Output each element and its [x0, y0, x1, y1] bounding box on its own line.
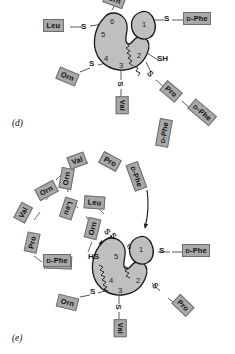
domain-number-2-e: 2	[136, 277, 140, 285]
atom-thiol-domain2-d: SH	[157, 55, 168, 63]
domain-number-3-e: 3	[118, 287, 122, 295]
domain-number-2-d: 2	[137, 52, 141, 60]
domain-number-1-d: 1	[142, 21, 146, 29]
atom-sulfur-domain1-e: S	[159, 247, 164, 255]
residue-dphe-domain1-e: D-Phe	[182, 244, 210, 257]
domain-number-1-e: 1	[139, 246, 143, 254]
atom-sulfur-domain4-e: S	[90, 288, 95, 296]
bond-s-orn	[80, 68, 90, 72]
atom-sulfur-domain3-d: S	[116, 81, 124, 86]
panel-label-d: (d)	[12, 119, 23, 128]
atom-sulfur-domain3-e: S	[114, 304, 122, 309]
peptide-release-arrow	[145, 190, 148, 228]
residue-val-domain3-e: Val	[114, 319, 127, 337]
domain-number-6-d: 6	[110, 18, 114, 26]
cyclic-residue-leu-1-e: Leu	[84, 195, 106, 209]
figure-canvas: Orn Leu S S D-Phe SH S Pro D-Phe S Orn S…	[0, 0, 235, 354]
residue-dphe-domain1-d: D-Phe	[183, 12, 211, 25]
panel-label-e: (e)	[12, 334, 22, 343]
atom-sulfur-domain1-d: S	[164, 15, 169, 23]
domain-number-5-d: 5	[101, 31, 105, 39]
domain-number-4-d: 4	[104, 55, 108, 63]
domain-number-3-d: 3	[119, 62, 123, 70]
diagram-vector-layer	[0, 0, 235, 354]
atom-thiol-domain4-e: HS	[88, 253, 99, 261]
residue-dphe-domain5-e: D-Phe	[43, 254, 71, 267]
atom-sulfur-domain5-d: S	[81, 23, 86, 31]
panel-e-peptide-bonds	[28, 160, 143, 266]
residue-val-domain3-d: Val	[116, 96, 129, 114]
domain-number-6-e: 6	[127, 243, 131, 251]
domain-number-4-e: 4	[109, 277, 113, 285]
atom-sulfur-domain4-d: S	[89, 60, 94, 68]
domain-number-5-e: 5	[114, 253, 118, 261]
residue-leu-domain5-d: Leu	[43, 19, 64, 32]
